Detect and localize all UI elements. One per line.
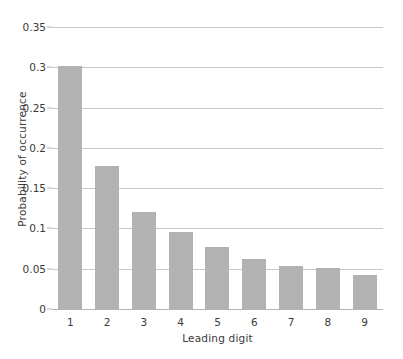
x-axis-tick-label: 2 [104, 316, 111, 328]
bar [58, 66, 82, 309]
bar-group: 4 [162, 27, 199, 309]
bar [353, 275, 377, 309]
x-axis-tick-label: 9 [361, 316, 368, 328]
bar-group: 6 [236, 27, 273, 309]
bar-group: 2 [89, 27, 126, 309]
plot-area: 00.050.10.150.20.250.30.35 123456789 [52, 27, 383, 309]
y-axis-tick-label: 0.3 [29, 61, 46, 73]
y-axis-tick-label: 0.25 [23, 102, 46, 114]
x-axis-tick-label: 8 [324, 316, 331, 328]
y-axis-tick-label: 0.15 [23, 182, 46, 194]
bar [132, 212, 156, 309]
bar [95, 166, 119, 309]
bar-group: 1 [52, 27, 89, 309]
bar-series: 123456789 [52, 27, 383, 309]
bar-group: 8 [309, 27, 346, 309]
bar-group: 9 [346, 27, 383, 309]
bar-group: 5 [199, 27, 236, 309]
x-axis-line [52, 309, 383, 310]
bar [279, 266, 303, 309]
bar [316, 268, 340, 309]
y-axis-tick-label: 0.1 [29, 222, 46, 234]
bar [205, 247, 229, 309]
x-axis-tick-label: 6 [251, 316, 258, 328]
x-axis-tick-label: 5 [214, 316, 221, 328]
x-axis-tick-label: 1 [67, 316, 74, 328]
bar [242, 259, 266, 309]
y-axis-tick-label: 0.05 [23, 263, 46, 275]
bar [169, 232, 193, 309]
bar-group: 7 [273, 27, 310, 309]
bar-group: 3 [126, 27, 163, 309]
x-axis-title: Leading digit [52, 332, 383, 344]
y-axis-tick-label: 0 [39, 303, 46, 315]
y-axis-tick-label: 0.2 [29, 142, 46, 154]
benford-bar-chart: Probability of occurrence 00.050.10.150.… [0, 0, 403, 359]
y-axis-tick-label: 0.35 [23, 21, 46, 33]
x-axis-tick-label: 7 [288, 316, 295, 328]
x-axis-tick-label: 4 [177, 316, 184, 328]
x-axis-tick-label: 3 [141, 316, 148, 328]
